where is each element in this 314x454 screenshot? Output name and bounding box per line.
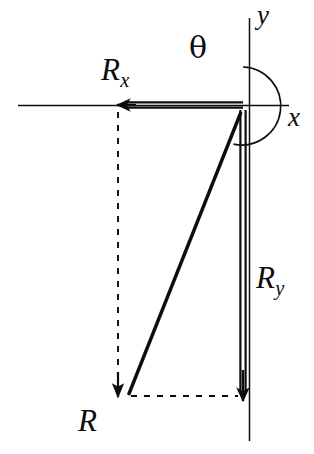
rx-label: Rx: [101, 54, 129, 85]
theta-label: θ: [189, 33, 207, 63]
vector-diagram-canvas: [0, 0, 314, 454]
rx-label-subscript: x: [120, 69, 129, 91]
ry-label: Ry: [256, 262, 284, 293]
r-resultant-vector: [129, 112, 242, 395]
rx-label-base: R: [101, 52, 120, 87]
y-axis-label: y: [257, 2, 269, 29]
x-axis-label: x: [288, 104, 300, 131]
r-label: R: [78, 405, 97, 436]
ry-label-base: R: [256, 260, 275, 295]
r-label-base: R: [78, 403, 97, 438]
ry-label-subscript: y: [275, 277, 284, 299]
vector-diagram: Rx Ry R θ y x: [0, 0, 314, 454]
